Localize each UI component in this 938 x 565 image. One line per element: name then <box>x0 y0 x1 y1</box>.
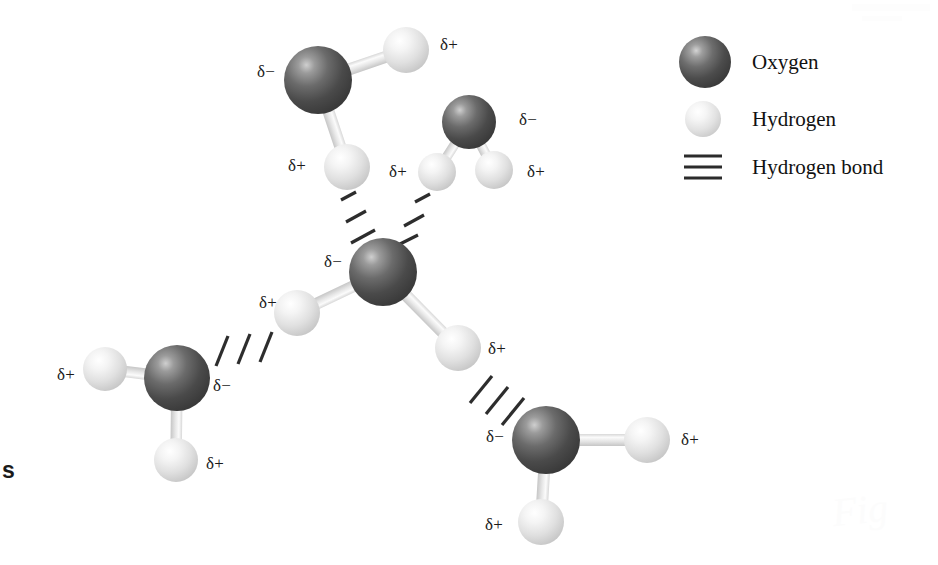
water-molecule-top-left-hydrogen-atom-1 <box>324 144 370 190</box>
water-molecule-bottom-right-oxygen-atom <box>512 406 580 474</box>
water-molecule-bottom-left-hydrogen-charge-label-0: δ+ <box>57 365 75 385</box>
hydrogen-bond-lower-right <box>470 376 524 425</box>
hydrogen-bonding-figure: δ−δ+δ+δ−δ+δ+δ−δ+δ+δ−δ+δ+δ−δ+δ+ OxygenHyd… <box>0 0 938 565</box>
water-molecule-bottom-left-oxygen-atom <box>144 345 210 411</box>
water-molecule-top-right-hydrogen-charge-label-1: δ+ <box>527 162 545 182</box>
water-molecule-center-hydrogen-atom-0 <box>274 290 320 336</box>
water-molecule-bottom-right-oxygen-charge-label: δ− <box>486 427 504 447</box>
atom-layer <box>83 27 670 545</box>
edge-text-fragment: s <box>2 457 15 484</box>
legend-icon-layer <box>679 36 731 178</box>
water-molecule-bottom-left-oxygen-charge-label: δ− <box>213 376 231 396</box>
water-molecule-center-hydrogen-charge-label-0: δ+ <box>259 293 277 313</box>
hydrogen-bond-top-left-dash-1 <box>346 211 366 222</box>
hydrogen-bond-top-right-dash-1 <box>404 215 424 226</box>
hydrogen-bond-lower-left-dash-2 <box>260 332 272 362</box>
hydrogen-bond-top-left-dash-0 <box>341 192 356 200</box>
oxygen-sphere-icon <box>679 36 731 88</box>
legend-label-oxygen: Oxygen <box>752 50 819 75</box>
hydrogen-bond-lower-left-dash-0 <box>216 336 228 366</box>
water-molecule-bottom-right-hydrogen-charge-label-1: δ+ <box>485 515 503 535</box>
water-molecule-center-oxygen-atom <box>349 238 417 306</box>
water-molecule-top-left-hydrogen-atom-0 <box>383 27 429 73</box>
water-molecule-bottom-right-hydrogen-charge-label-0: δ+ <box>681 430 699 450</box>
hydrogen-sphere-icon <box>685 101 721 137</box>
molecule-scene <box>0 0 938 565</box>
water-molecule-top-right-hydrogen-charge-label-0: δ+ <box>389 162 407 182</box>
water-molecule-top-right-hydrogen-atom-0 <box>418 153 456 191</box>
hydrogen-bond-top-right <box>394 194 430 247</box>
water-molecule-center-hydrogen-charge-label-1: δ+ <box>488 339 506 359</box>
watermark: Fig <box>830 484 890 537</box>
hydrogen-bond-lower-left <box>216 332 272 366</box>
water-molecule-bottom-left-hydrogen-atom-0 <box>83 347 127 391</box>
legend-label-hydrogen_bond: Hydrogen bond <box>752 155 883 180</box>
hydrogen-bond-icon <box>684 156 722 178</box>
water-molecule-top-left-hydrogen-charge-label-0: δ+ <box>440 35 458 55</box>
water-molecule-bottom-left-hydrogen-atom-1 <box>154 438 198 482</box>
hydrogen-bond-lower-left-dash-1 <box>238 334 250 364</box>
water-molecule-top-left-hydrogen-charge-label-1: δ+ <box>288 156 306 176</box>
water-molecule-top-left-oxygen-atom <box>284 46 352 114</box>
hydrogen-bond-top-right-dash-0 <box>415 194 430 202</box>
water-molecule-top-right-oxygen-atom <box>442 95 496 149</box>
hydrogen-bond-top-left <box>341 192 375 243</box>
water-molecule-top-right-oxygen-charge-label: δ− <box>519 110 537 130</box>
water-molecule-center-oxygen-charge-label: δ− <box>324 252 342 272</box>
water-molecule-top-right-hydrogen-atom-1 <box>475 151 513 189</box>
hydrogen-bond-lower-right-dash-1 <box>486 387 508 414</box>
hydrogen-bond-lower-right-dash-0 <box>470 376 492 403</box>
water-molecule-center-hydrogen-atom-1 <box>435 325 481 371</box>
water-molecule-top-left-oxygen-charge-label: δ− <box>257 62 275 82</box>
water-molecule-bottom-right-hydrogen-atom-1 <box>518 499 564 545</box>
water-molecule-bottom-right-hydrogen-atom-0 <box>624 417 670 463</box>
water-molecule-bottom-left-hydrogen-charge-label-1: δ+ <box>206 454 224 474</box>
legend-label-hydrogen: Hydrogen <box>752 107 836 132</box>
